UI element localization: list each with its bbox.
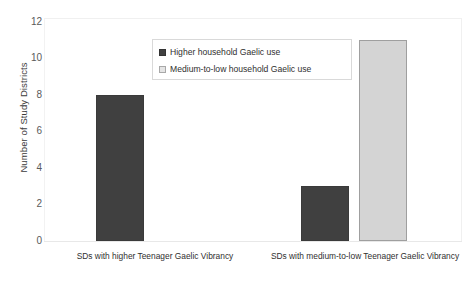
x-axis-label-group1: SDs with higher Teenager Gaelic Vibrancy [46,251,264,262]
legend-item-medium-to-low-household[interactable]: Medium-to-low household Gaelic use [159,62,345,77]
legend-item-higher-household[interactable]: Higher household Gaelic use [159,45,345,60]
y-axis-title: Number of Study Districts [18,3,29,233]
y-tick-6: 6 [16,126,42,136]
y-tick-10: 10 [16,53,42,63]
y-tick-12: 12 [16,17,42,27]
bar-group1-higher-household[interactable] [96,95,144,241]
y-tick-4: 4 [16,163,42,173]
legend-swatch-icon-light [159,66,166,73]
y-tick-8: 8 [16,90,42,100]
legend: Higher household Gaelic use Medium-to-lo… [152,39,352,80]
x-axis-label-group2: SDs with medium-to-low Teenager Gaelic V… [262,251,468,262]
cut-off-caption [6,281,306,287]
legend-label-higher-household: Higher household Gaelic use [170,48,280,57]
legend-label-medium-to-low-household: Medium-to-low household Gaelic use [170,65,311,74]
y-tick-0: 0 [16,236,42,246]
y-tick-2: 2 [16,199,42,209]
bar-group2-higher-household[interactable] [301,186,349,241]
legend-swatch-icon-dark [159,49,166,56]
bar-group2-medium-to-low-household[interactable] [359,40,407,241]
bar-chart: Number of Study Districts 12 10 8 6 4 2 … [0,0,474,287]
x-axis-baseline [44,241,462,242]
